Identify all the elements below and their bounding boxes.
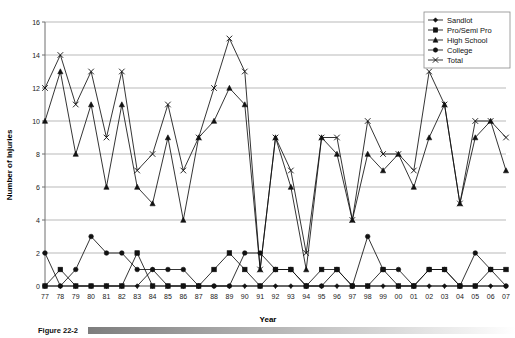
data-point-square [258,284,263,289]
data-point-circle [104,251,109,256]
x-tick-label: 03 [441,293,449,300]
data-point-circle [120,251,125,256]
chart-legend: SandlotPro/Semi ProHigh SchoolCollegeTot… [424,12,510,68]
x-tick-label: 91 [256,293,264,300]
data-point-circle [442,267,447,272]
data-point-square [73,284,78,289]
legend-label: Total [447,56,463,65]
data-point-circle [458,284,463,289]
data-point-circle [43,251,48,256]
x-axis-title: Year [260,315,277,324]
y-tick-label: 12 [32,85,40,92]
x-tick-label: 06 [487,293,495,300]
x-tick-label: 88 [210,293,218,300]
data-point-square [181,284,186,289]
data-point-square [242,267,247,272]
data-point-square [365,284,370,289]
data-point-circle [412,284,417,289]
y-tick-label: 10 [32,118,40,125]
data-point-circle [381,267,386,272]
data-point-circle [335,267,340,272]
y-tick-label: 6 [36,184,40,191]
data-point-circle [242,251,247,256]
data-point-circle [181,267,186,272]
x-tick-label: 94 [302,293,310,300]
x-tick-label: 99 [379,293,387,300]
x-tick-label: 84 [149,293,157,300]
x-tick-label: 01 [410,293,418,300]
x-tick-label: 05 [471,293,479,300]
caption-gradient-bar [88,327,515,334]
data-point-circle [350,284,355,289]
data-point-circle [319,284,324,289]
data-point-square [473,284,478,289]
data-point-circle [427,267,432,272]
x-tick-label: 00 [395,293,403,300]
data-point-square [120,284,125,289]
data-point-circle [196,284,201,289]
figure-caption-label: Figure 22-2 [38,326,78,335]
data-point-circle [488,267,493,272]
y-tick-label: 2 [36,250,40,257]
x-tick-label: 93 [287,293,295,300]
data-point-circle [58,284,63,289]
x-tick-label: 04 [456,293,464,300]
data-point-circle [89,234,94,239]
legend-label: Pro/Semi Pro [447,26,492,35]
data-point-circle [304,284,309,289]
injuries-line-chart: 0246810121416 77787980818283848586878889… [0,0,515,338]
data-point-square [319,267,324,272]
data-point-square [433,28,437,32]
x-tick-label: 98 [364,293,372,300]
x-tick-label: 78 [56,293,64,300]
y-tick-label: 4 [36,217,40,224]
x-tick-label: 85 [164,293,172,300]
data-point-circle [150,267,155,272]
data-point-square [89,284,94,289]
data-point-square [104,284,109,289]
data-point-square [43,284,48,289]
figure-container: 0246810121416 77787980818283848586878889… [0,0,515,338]
data-point-circle [396,267,401,272]
x-tick-label: 90 [241,293,249,300]
x-tick-label: 07 [502,293,510,300]
data-point-circle [289,267,294,272]
x-tick-label: 77 [41,293,49,300]
x-tick-label: 81 [103,293,111,300]
x-tick-label: 96 [333,293,341,300]
legend-label: High School [447,36,488,45]
y-tick-label: 16 [32,19,40,26]
data-point-circle [473,251,478,256]
x-tick-label: 97 [348,293,356,300]
x-tick-label: 86 [179,293,187,300]
x-tick-label: 83 [133,293,141,300]
x-tick-label: 80 [87,293,95,300]
data-point-circle [365,234,370,239]
data-point-square [504,267,509,272]
x-tick-label: 92 [272,293,280,300]
x-tick-label: 89 [226,293,234,300]
data-point-square [212,267,217,272]
y-tick-label: 8 [36,151,40,158]
y-tick-label: 0 [36,283,40,290]
y-axis-title: Number of Injuries [5,129,14,200]
data-point-circle [73,267,78,272]
data-point-circle [273,267,278,272]
data-point-circle [504,284,509,289]
data-point-square [150,284,155,289]
figure-caption: Figure 22-2 [38,326,515,335]
data-point-square [58,267,63,272]
data-point-square [135,251,140,256]
data-point-circle [212,284,217,289]
data-point-square [396,284,401,289]
data-point-circle [433,48,437,52]
x-tick-label: 02 [425,293,433,300]
y-tick-label: 14 [32,52,40,59]
legend-label: Sandlot [447,16,473,25]
data-point-square [166,284,171,289]
x-tick-label: 87 [195,293,203,300]
x-tick-label: 79 [72,293,80,300]
data-point-circle [135,267,140,272]
data-point-circle [227,284,232,289]
legend-label: College [447,46,472,55]
